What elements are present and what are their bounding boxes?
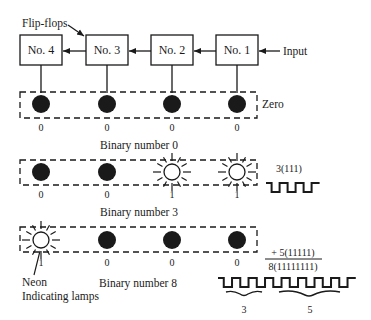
light-ray <box>51 246 56 249</box>
light-ray <box>182 178 187 181</box>
sum-total: 8(11111111) <box>268 261 317 273</box>
lamp-off <box>228 95 246 113</box>
row-1-pulse-label: 3(111) <box>276 163 302 175</box>
light-ray <box>247 164 252 167</box>
bit-digit: 0 <box>39 189 44 200</box>
row-1-caption: Binary number 3 <box>100 206 178 219</box>
pulse-train-8 <box>218 278 356 287</box>
lamp-off <box>163 231 181 249</box>
flip-flop-no3: No. 3 <box>86 35 128 65</box>
light-ray <box>26 246 31 249</box>
flip-flop-label: No. 4 <box>28 43 55 57</box>
flip-flop-label: No. 1 <box>224 43 251 57</box>
lamp-off <box>98 231 116 249</box>
neon-label: Neon <box>22 276 47 288</box>
zero-label: Zero <box>262 98 284 110</box>
light-ray <box>243 182 246 187</box>
binary-counter-diagram: Flip-flops No. 4 No. 3 No. 2 No. 1 Input… <box>0 0 371 320</box>
indicating-lamps-label: Indicating lamps <box>22 290 99 303</box>
bit-digit: 0 <box>235 122 240 133</box>
pulse-train-3 <box>266 183 320 192</box>
lamp-off <box>32 95 50 113</box>
bit-digit: 0 <box>105 257 110 268</box>
brace-label-5: 5 <box>308 304 313 315</box>
light-ray <box>26 232 31 235</box>
row-2-caption: Binary number 8 <box>99 277 177 290</box>
flip-flop-no2: No. 2 <box>151 35 193 65</box>
input-label: Input <box>283 45 308 58</box>
bit-digit: 1 <box>39 257 44 268</box>
diagram-canvas: Flip-flops No. 4 No. 3 No. 2 No. 1 Input… <box>0 0 371 320</box>
light-ray <box>157 178 162 181</box>
flip-flop-no4: No. 4 <box>20 35 62 65</box>
bit-digit: 0 <box>105 189 110 200</box>
bit-digit: 0 <box>170 257 175 268</box>
bit-digit: 0 <box>105 122 110 133</box>
lamp-off <box>32 163 50 181</box>
light-ray <box>157 164 162 167</box>
sum-addend: + 5(11111) <box>271 247 314 259</box>
brace-5 <box>279 291 340 296</box>
bit-digit: 1 <box>235 189 240 200</box>
light-ray <box>47 225 50 230</box>
flip-flop-label: No. 3 <box>94 43 121 57</box>
light-ray <box>222 164 227 167</box>
brace-3 <box>226 291 262 295</box>
light-ray <box>247 178 252 181</box>
flip-flops-label: Flip-flops <box>22 17 68 30</box>
row-0-caption: Binary number 0 <box>100 139 178 152</box>
bit-digit: 0 <box>170 122 175 133</box>
bit-digit: 0 <box>235 257 240 268</box>
bit-digit: 1 <box>170 189 175 200</box>
light-ray <box>229 182 232 187</box>
lamp-layer: 000000111000 <box>22 95 256 268</box>
lamp-off <box>98 163 116 181</box>
flip-flops-leader <box>68 25 84 36</box>
lamp-off <box>163 95 181 113</box>
flip-flop-label: No. 2 <box>159 43 186 57</box>
light-ray <box>222 178 227 181</box>
light-ray <box>164 182 167 187</box>
bit-digit: 0 <box>39 122 44 133</box>
light-ray <box>51 232 56 235</box>
light-ray <box>182 164 187 167</box>
lamp-row-0-frame <box>20 92 257 118</box>
light-ray <box>178 182 181 187</box>
flip-flop-no1: No. 1 <box>216 35 258 65</box>
lamp-off <box>98 95 116 113</box>
light-ray <box>33 225 36 230</box>
lamp-off <box>228 231 246 249</box>
brace-label-3: 3 <box>242 304 247 315</box>
